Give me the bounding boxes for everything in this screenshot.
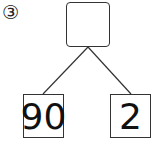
answer-box-top[interactable] (66, 2, 110, 47)
number-box-left: 90 (23, 94, 64, 138)
number-box-right: 2 (110, 94, 151, 138)
